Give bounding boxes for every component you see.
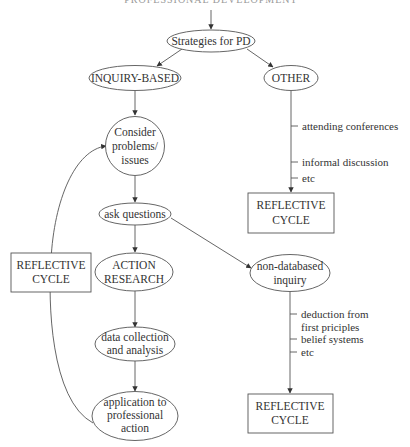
node-label-line: data collection	[101, 331, 169, 343]
example-item: informal discussion	[302, 156, 389, 168]
node-label-line: inquiry	[273, 274, 306, 287]
node-ask-questions: ask questions	[99, 203, 171, 225]
node-label: ask questions	[104, 208, 166, 221]
node-label-line: issues	[121, 154, 149, 166]
node-consider-problems: Consider problems/ issues	[106, 117, 165, 176]
box-reflective-cycle-left: REFLECTIVE CYCLE	[11, 253, 91, 292]
node-label-line: CYCLE	[32, 273, 70, 285]
node-inquiry-based: INQUIRY-BASED	[89, 66, 181, 91]
node-label-line: REFLECTIVE	[257, 199, 326, 211]
node-label-line: and analysis	[107, 344, 164, 357]
pd-strategies-diagram: PROFESSIONAL DEVELOPMENT Strategies for …	[0, 0, 410, 447]
node-data-collection: data collection and analysis	[95, 327, 175, 361]
example-item: attending conferences	[302, 120, 398, 132]
node-label-line: professional	[107, 409, 163, 422]
other-examples-list: attending conferences informal discussio…	[302, 120, 398, 184]
diagram-title: PROFESSIONAL DEVELOPMENT	[124, 0, 297, 5]
node-label-line: REFLECTIVE	[17, 259, 86, 271]
node-label-line: REFLECTIVE	[256, 400, 325, 412]
node-label: OTHER	[272, 72, 311, 84]
edge-ask-to-nondatabased	[171, 218, 251, 268]
box-reflective-cycle-right-bottom: REFLECTIVE CYCLE	[248, 394, 333, 433]
example-item: deduction from	[301, 308, 369, 320]
example-item: etc	[301, 346, 314, 358]
box-reflective-cycle-right-top: REFLECTIVE CYCLE	[248, 193, 334, 233]
example-item: etc	[302, 172, 315, 184]
nondatabased-examples-list: deduction from first priciples belief sy…	[301, 308, 369, 358]
node-label-line: Consider	[114, 126, 156, 138]
node-label-line: CYCLE	[271, 414, 309, 426]
node-label-line: application to	[104, 396, 167, 409]
node-non-databased-inquiry: non-databased inquiry	[250, 255, 330, 292]
node-label-line: action	[121, 422, 149, 434]
example-item: first priciples	[301, 321, 359, 333]
node-label-line: CYCLE	[272, 214, 310, 226]
example-item: belief systems	[301, 333, 364, 345]
node-application: application to professional action	[92, 392, 178, 441]
node-label: Strategies for PD	[171, 35, 250, 48]
edge-strategies-to-inquiry	[157, 49, 182, 66]
node-label: INQUIRY-BASED	[91, 72, 179, 84]
node-label-line: ACTION	[112, 259, 156, 271]
edge-strategies-to-other	[247, 49, 273, 67]
node-label-line: non-databased	[257, 260, 324, 272]
node-strategies-for-pd: Strategies for PD	[167, 30, 255, 52]
node-action-research: ACTION RESEARCH	[95, 253, 173, 291]
node-label-line: RESEARCH	[104, 273, 164, 285]
node-other: OTHER	[264, 66, 318, 91]
node-label-line: problems/	[112, 140, 159, 153]
